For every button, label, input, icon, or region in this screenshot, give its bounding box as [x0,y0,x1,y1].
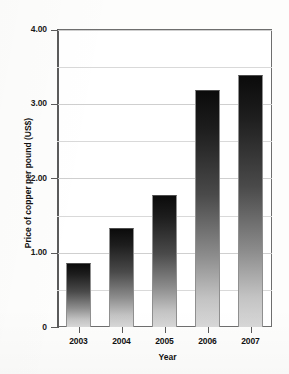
y-tick-4-00 [51,30,58,31]
x-tick-label-2006: 2006 [188,336,228,346]
bar-2006[interactable] [195,90,220,327]
y-axis-title: Price of copper per pound (US$) [23,68,33,298]
bar-2003[interactable] [66,263,91,327]
x-tick-2005 [165,327,166,333]
x-tick-label-2007: 2007 [231,336,271,346]
x-tick-label-2005: 2005 [145,336,185,346]
x-tick-2007 [251,327,252,333]
bar-2007[interactable] [238,75,263,327]
y-tick-3-00 [51,104,58,105]
x-tick-2006 [208,327,209,333]
y-tick-1-00 [51,253,58,254]
x-tick-label-2003: 2003 [59,336,99,346]
x-tick-2004 [122,327,123,333]
bar-2005[interactable] [152,195,177,327]
bar-2004[interactable] [109,228,134,327]
x-tick-label-2004: 2004 [102,336,142,346]
y-tick-label-2-00: 2.00 [31,173,47,183]
gridline-3-50 [57,67,272,68]
x-axis-title: Year [0,352,289,362]
y-tick-2-00 [51,178,58,179]
y-tick-label-1-00: 1.00 [31,247,47,257]
y-tick-0 [51,327,58,328]
x-tick-2003 [79,327,80,333]
y-tick-label-3-00: 3.00 [31,98,47,108]
chart-figure: 4.00 3.00 2.00 1.00 0 2003 2004 2005 200… [0,0,289,374]
gridline-4-00 [57,30,272,31]
y-tick-label-0: 0 [42,322,47,332]
y-tick-label-4-00: 4.00 [31,24,47,34]
